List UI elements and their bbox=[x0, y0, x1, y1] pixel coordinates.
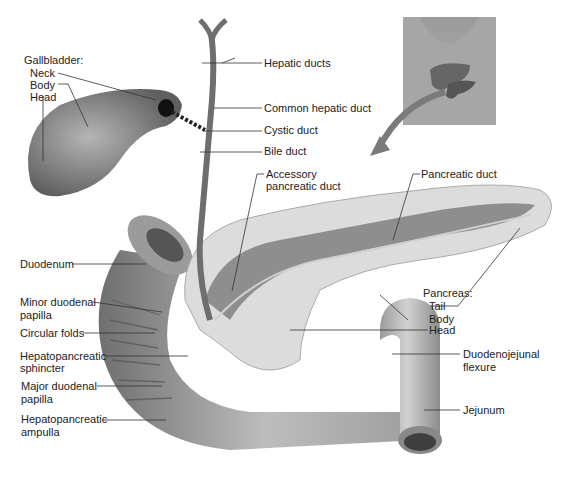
label-hepatopancreatic-ampulla-line2: ampulla bbox=[21, 426, 60, 439]
label-hepatic-ducts: Hepatic ducts bbox=[264, 57, 331, 70]
label-pancreas-head: Head bbox=[429, 324, 455, 337]
label-bile-duct: Bile duct bbox=[264, 145, 306, 158]
label-gallbladder-head: Head bbox=[30, 91, 56, 104]
anatomy-diagram: Gallbladder: Neck Body Head Hepatic duct… bbox=[0, 0, 566, 483]
label-duodenojejunal-flexure: Duodenojejunal bbox=[463, 348, 539, 361]
label-jejunum: Jejunum bbox=[463, 404, 505, 417]
torso-inset bbox=[403, 17, 496, 125]
label-pancreas-tail: Tail bbox=[429, 300, 446, 313]
label-hepatopancreatic-ampulla: Hepatopancreatic bbox=[21, 413, 107, 426]
label-major-duodenal-papilla-line2: papilla bbox=[21, 393, 53, 406]
label-minor-duodenal-papilla-line2: papilla bbox=[20, 309, 52, 322]
label-hepatopancreatic-sphincter-line2: sphincter bbox=[20, 362, 65, 375]
label-pancreas: Pancreas: bbox=[423, 287, 473, 300]
label-common-hepatic-duct: Common hepatic duct bbox=[264, 102, 371, 115]
label-circular-folds: Circular folds bbox=[20, 327, 84, 340]
label-minor-duodenal-papilla: Minor duodenal bbox=[20, 296, 96, 309]
label-pancreatic-duct: Pancreatic duct bbox=[421, 168, 497, 181]
label-duodenojejunal-flexure-line2: flexure bbox=[463, 361, 496, 374]
label-gallbladder: Gallbladder: bbox=[24, 54, 83, 67]
label-accessory-pancreatic-duct-line2: pancreatic duct bbox=[266, 180, 341, 193]
label-duodenum: Duodenum bbox=[20, 258, 74, 271]
label-cystic-duct: Cystic duct bbox=[264, 124, 318, 137]
label-major-duodenal-papilla: Major duodenal bbox=[21, 380, 97, 393]
